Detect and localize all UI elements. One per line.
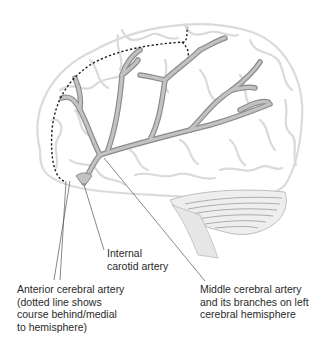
- label-anterior-cerebral-artery: Anterior cerebral artery (dotted line sh…: [17, 283, 124, 333]
- brain-artery-diagram: Internal carotid artery Anterior cerebra…: [0, 0, 321, 341]
- internal-carotid-artery: [76, 173, 92, 184]
- label-internal-carotid-artery: Internal carotid artery: [107, 247, 168, 272]
- label-middle-cerebral-artery: Middle cerebral artery and its branches …: [200, 283, 309, 321]
